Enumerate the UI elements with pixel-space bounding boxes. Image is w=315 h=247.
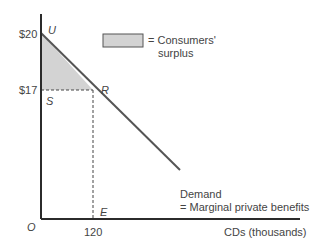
point-label-s: S xyxy=(46,95,53,107)
legend-text-line2: surplus xyxy=(158,47,193,59)
y-tick-20: $20 xyxy=(19,28,37,40)
x-axis-label: CDs (thousands) xyxy=(224,226,307,238)
demand-label-line1: Demand xyxy=(180,188,222,200)
point-label-u: U xyxy=(48,24,56,36)
legend-swatch xyxy=(103,34,143,47)
demand-label-line2: = Marginal private benefits xyxy=(180,201,309,213)
origin-label: O xyxy=(27,221,36,233)
legend-text-line1: = Consumers' xyxy=(148,34,216,46)
point-label-e: E xyxy=(100,206,107,218)
point-label-r: R xyxy=(101,84,109,96)
x-tick-120: 120 xyxy=(84,226,102,238)
y-tick-17: $17 xyxy=(19,84,37,96)
